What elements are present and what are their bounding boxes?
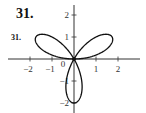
- x-tick-label: −1: [45, 64, 55, 74]
- y-tick-label: −2: [59, 98, 69, 108]
- polar-rose-chart: −2−11221−1−20: [0, 0, 146, 113]
- origin-point: [72, 57, 76, 61]
- x-tick-label: 2: [116, 64, 121, 74]
- y-tick-label: 1: [65, 32, 70, 42]
- x-tick-label: 1: [94, 64, 99, 74]
- x-tick-label: −2: [23, 64, 33, 74]
- y-tick-label: 2: [65, 10, 70, 20]
- y-tick-label: −1: [59, 76, 69, 86]
- origin-label: 0: [61, 59, 66, 69]
